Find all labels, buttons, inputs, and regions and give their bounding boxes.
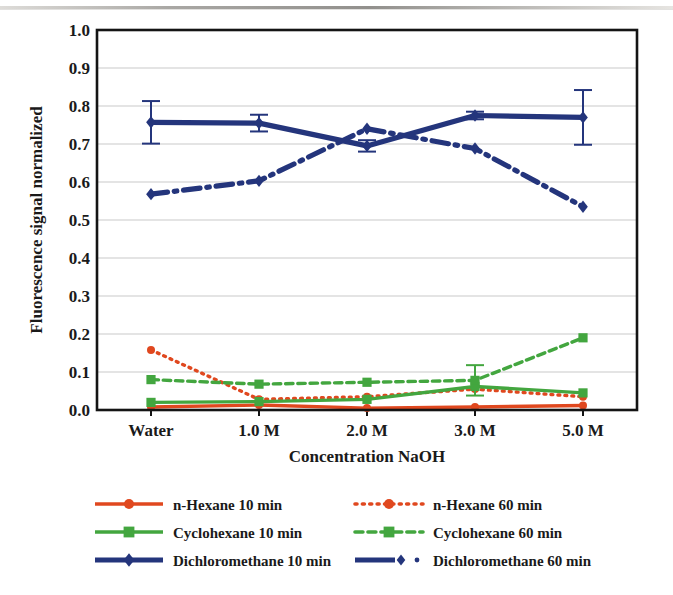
scan-artifact-line-secondary [0,9,673,10]
legend-label: Cyclohexane 60 min [433,525,563,541]
x-tick-label: Water [128,421,174,440]
legend-marker-sample [124,527,135,538]
y-tick-label: 0.7 [69,135,91,154]
data-point-marker [362,378,371,387]
fluorescence-line-chart: 0.00.10.20.30.40.50.60.70.80.91.0 Water1… [0,0,673,595]
legend-item-n-hexane-10-min[interactable]: n-Hexane 10 min [95,497,283,513]
legend: n-Hexane 10 minn-Hexane 60 minCyclohexan… [95,497,592,569]
data-point-marker [254,380,263,389]
y-axis-tick-labels: 0.00.10.20.30.40.50.60.70.80.91.0 [69,21,91,420]
data-point-marker [146,375,155,384]
legend-item-n-hexane-60-min[interactable]: n-Hexane 60 min [355,497,543,513]
x-tick-label: 3.0 M [454,421,496,440]
data-point-marker [578,388,587,397]
figure-container: 0.00.10.20.30.40.50.60.70.80.91.0 Water1… [0,0,673,595]
legend-marker-sample [384,499,394,509]
legend-item-cyclohexane-60-min[interactable]: Cyclohexane 60 min [355,525,563,541]
x-tick-label: 2.0 M [346,421,388,440]
y-tick-label: 0.2 [69,325,90,344]
data-point-marker [578,333,587,342]
legend-label: Dichloromethane 10 min [173,553,332,569]
legend-label: Dichloromethane 60 min [433,553,592,569]
legend-item-dichloromethane-10-min[interactable]: Dichloromethane 10 min [95,553,332,569]
x-tick-label: 5.0 M [562,421,604,440]
y-tick-label: 0.1 [69,363,90,382]
legend-marker-sample [124,499,134,509]
legend-label: Cyclohexane 10 min [173,525,303,541]
y-tick-label: 0.6 [69,173,90,192]
y-tick-label: 1.0 [69,21,90,40]
legend-item-cyclohexane-10-min[interactable]: Cyclohexane 10 min [95,525,303,541]
data-point-marker [579,401,587,409]
data-point-marker [147,346,155,354]
data-point-marker [146,398,155,407]
data-point-marker [362,395,371,404]
legend-marker-sample [124,553,135,567]
legend-label: n-Hexane 10 min [173,497,283,513]
data-point-marker [470,376,479,385]
legend-dot-sample [415,558,420,563]
legend-item-dichloromethane-60-min[interactable]: Dichloromethane 60 min [355,553,592,569]
y-tick-label: 0.0 [69,401,90,420]
legend-marker-sample [397,555,406,566]
x-tick-label: 1.0 M [238,421,280,440]
legend-label: n-Hexane 60 min [433,497,543,513]
x-axis-tick-labels: Water1.0 M2.0 M3.0 M5.0 M [128,421,603,440]
y-axis-title: Fluorescence signal normalized [27,106,46,334]
y-tick-label: 0.4 [69,249,91,268]
y-tick-label: 0.8 [69,97,90,116]
data-point-marker [254,397,263,406]
legend-marker-sample [384,527,395,538]
y-tick-label: 0.5 [69,211,90,230]
y-tick-label: 0.3 [69,287,90,306]
x-axis-title: Concentration NaOH [289,447,445,466]
y-tick-label: 0.9 [69,59,90,78]
